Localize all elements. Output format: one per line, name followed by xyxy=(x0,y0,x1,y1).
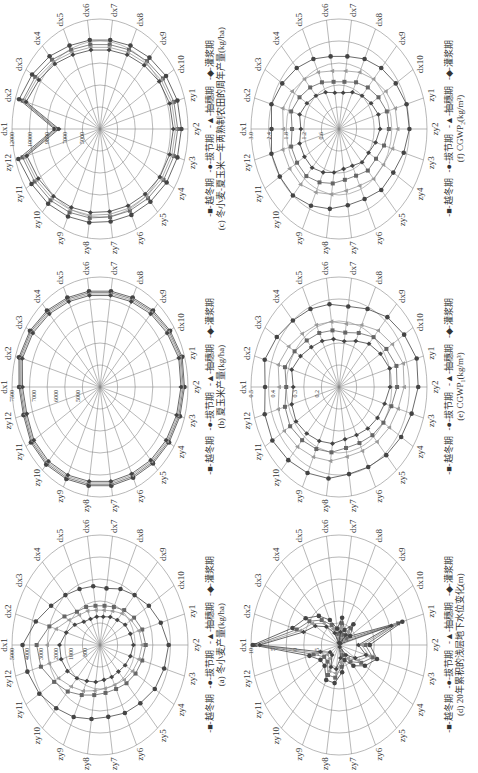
axis-label-dx10: dx10 xyxy=(415,55,425,74)
legend-item-0: -■-越冬期 xyxy=(444,178,454,216)
axis-label-dx5: dx5 xyxy=(294,13,304,27)
tick-label: 7000 xyxy=(62,132,68,144)
axis-label-dx6: dx6 xyxy=(320,3,330,17)
axis-label-dx10: dx10 xyxy=(176,55,186,74)
tick-label: 0.2 xyxy=(314,390,320,398)
data-point-marker xyxy=(320,339,325,344)
data-point-marker xyxy=(75,610,79,614)
data-point-marker xyxy=(387,127,391,131)
data-point-marker xyxy=(270,438,275,443)
legend-item-3: -◆-灌浆期 xyxy=(205,298,215,338)
data-point-marker xyxy=(414,356,419,361)
legend-item-2: -▲-抽穗期 xyxy=(444,86,454,128)
data-point-marker xyxy=(309,203,314,208)
axis-label-dx6: dx6 xyxy=(81,3,91,17)
legend-item-1: -●-拔节期 xyxy=(205,392,215,430)
axis-label-dx9: dx9 xyxy=(158,289,168,303)
data-point-marker xyxy=(334,667,339,672)
data-point-marker xyxy=(102,678,107,683)
axis-label-zy11: zy11 xyxy=(253,701,263,718)
data-point-marker xyxy=(93,604,97,608)
axis-label-dx6: dx6 xyxy=(320,261,330,275)
data-point-marker xyxy=(341,167,346,172)
data-point-marker xyxy=(276,407,280,412)
data-point-marker xyxy=(77,587,82,592)
data-point-marker xyxy=(277,174,282,179)
data-point-marker xyxy=(343,437,348,442)
axis-label-dx1: dx1 xyxy=(239,122,248,136)
data-point-marker xyxy=(123,711,128,716)
data-point-marker xyxy=(322,655,326,659)
data-point-marker xyxy=(370,433,374,437)
legend-item-0: -■-越冬期 xyxy=(444,694,454,732)
data-point-marker xyxy=(62,614,66,618)
tick-label: 7500 xyxy=(9,390,15,402)
data-point-marker xyxy=(88,617,93,622)
axis-label-zy6: zy6 xyxy=(374,489,384,502)
tick-label: 2.4 xyxy=(266,132,272,140)
data-point-marker xyxy=(20,643,25,648)
data-point-marker xyxy=(328,54,333,59)
axis-label-zy5: zy5 xyxy=(158,213,168,226)
data-point-marker xyxy=(29,182,34,187)
data-point-marker xyxy=(371,655,375,659)
chart-caption: (c) 冬小麦-夏玉米一年两熟制农田的周年产量(kg/ha) xyxy=(216,0,227,257)
data-point-marker xyxy=(390,146,394,151)
data-point-marker xyxy=(379,188,384,193)
data-point-marker xyxy=(351,663,356,668)
legend-item-0: -■-越冬期 xyxy=(444,436,454,474)
axis-label-dx2: dx2 xyxy=(242,88,252,102)
data-point-marker xyxy=(307,619,311,623)
data-point-marker xyxy=(289,367,294,372)
chart-legend: -■-越冬期-●-拔节期-▲-抽穗期-◆-灌浆期 xyxy=(203,258,216,515)
axis-label-dx2: dx2 xyxy=(3,604,13,618)
axis-label-zy5: zy5 xyxy=(397,471,407,484)
data-point-marker xyxy=(362,197,367,202)
axis-label-dx10: dx10 xyxy=(415,571,425,590)
axis-label-dx7: dx7 xyxy=(109,261,119,275)
axis-label-dx7: dx7 xyxy=(348,3,358,17)
data-point-marker xyxy=(81,619,86,624)
radar-chart: dx1dx2dx3dx4dx5dx6dx7dx8dx9dx10zy1zy2zy3… xyxy=(0,516,205,773)
axis-label-zy7: zy7 xyxy=(109,499,119,512)
chart-caption: (a) 冬小麦产量(kg/ha) xyxy=(216,516,227,773)
axis-label-dx9: dx9 xyxy=(397,31,407,45)
radar-panel-c: dx1dx2dx3dx4dx5dx6dx7dx8dx9dx10zy1zy2zy3… xyxy=(0,0,239,257)
axis-label-dx3: dx3 xyxy=(14,57,24,71)
axis-label-dx9: dx9 xyxy=(397,289,407,303)
data-point-marker xyxy=(353,339,358,344)
legend-item-2: -▲-抽穗期 xyxy=(205,602,215,644)
data-point-marker xyxy=(298,95,302,99)
tick-label: 500 xyxy=(82,648,88,657)
axis-label-zy4: zy4 xyxy=(415,703,425,716)
legend-item-3: -◆-灌浆期 xyxy=(444,556,454,596)
axis-label-dx8: dx8 xyxy=(135,271,145,285)
data-point-marker xyxy=(399,435,404,440)
axis-label-zy5: zy5 xyxy=(397,213,407,226)
data-point-marker xyxy=(166,643,171,648)
data-point-marker xyxy=(342,80,346,84)
data-point-marker xyxy=(354,80,358,84)
data-point-marker xyxy=(289,109,293,113)
axis-label-zy1: zy1 xyxy=(426,89,436,102)
axis-label-zy6: zy6 xyxy=(374,231,384,244)
data-point-marker xyxy=(341,90,346,95)
data-point-marker xyxy=(49,603,54,608)
axis-label-zy2: zy2 xyxy=(430,639,440,652)
axis-label-zy9: zy9 xyxy=(294,489,304,502)
legend-item-3: -◆-灌浆期 xyxy=(205,556,215,596)
series-line-1 xyxy=(265,304,419,478)
legend-item-0: -■-越冬期 xyxy=(205,178,215,216)
radar-panel-d: dx1dx2dx3dx4dx5dx6dx7dx8dx9dx10zy1zy2zy3… xyxy=(239,516,478,773)
data-point-marker xyxy=(275,335,280,340)
data-point-marker xyxy=(128,632,133,637)
chart-caption: (b) 夏玉米产量(kg/ha) xyxy=(216,258,227,515)
axis-label-dx8: dx8 xyxy=(374,13,384,27)
data-point-marker xyxy=(357,441,361,445)
axis-label-dx1: dx1 xyxy=(239,638,248,652)
data-point-marker xyxy=(378,127,383,132)
axis-label-zy8: zy8 xyxy=(320,499,330,512)
radar-chart: dx1dx2dx3dx4dx5dx6dx7dx8dx9dx10zy1zy2zy3… xyxy=(239,258,444,515)
tick-label: 10000 xyxy=(27,132,33,147)
data-point-marker xyxy=(350,90,355,95)
